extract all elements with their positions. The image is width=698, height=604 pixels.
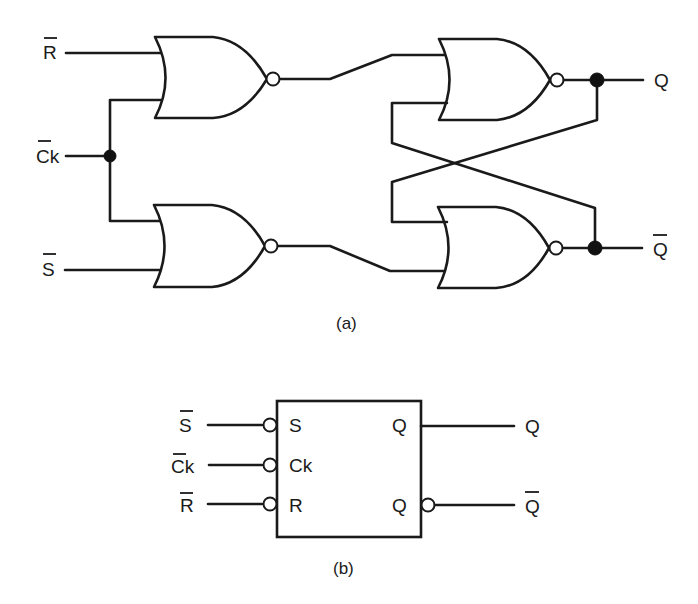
caption-b: (b) bbox=[333, 559, 354, 578]
output-q-bar-label: Q bbox=[653, 235, 668, 260]
nor-gate-1 bbox=[155, 37, 267, 118]
ext-input-ck-bar-label: Ck bbox=[171, 454, 195, 477]
ext-input-r-bar-label: R bbox=[180, 493, 194, 516]
junction-q bbox=[590, 73, 604, 87]
pin-r-bubble bbox=[264, 498, 277, 511]
ext-output-q-bar-label: Q bbox=[525, 492, 540, 517]
output-q-label: Q bbox=[654, 70, 669, 91]
nor-gate-4 bbox=[438, 207, 549, 288]
figure-b: S Ck R S Ck R Q Q Q Q (b) bbox=[171, 401, 540, 578]
input-s-bar-label: S bbox=[42, 254, 56, 280]
ext-output-q-label: Q bbox=[525, 416, 540, 437]
pin-q-bar-label: Q bbox=[392, 495, 407, 516]
nor-gate-3-bubble bbox=[551, 74, 564, 87]
pin-q-label: Q bbox=[392, 415, 407, 436]
pin-r-label: R bbox=[289, 495, 303, 516]
svg-text:R: R bbox=[43, 42, 57, 63]
pin-ck-label: Ck bbox=[289, 455, 313, 476]
nor-gate-2-bubble bbox=[265, 240, 278, 253]
caption-a: (a) bbox=[336, 314, 357, 333]
nor-gate-4-bubble bbox=[550, 242, 563, 255]
svg-text:Ck: Ck bbox=[171, 456, 195, 477]
svg-text:Ck: Ck bbox=[36, 146, 60, 167]
svg-text:R: R bbox=[180, 495, 194, 516]
nor-gate-3 bbox=[439, 39, 550, 120]
junction-q-bar bbox=[588, 241, 602, 255]
svg-text:S: S bbox=[42, 259, 55, 280]
wire-g1-to-g3 bbox=[280, 55, 446, 79]
flip-flop-diagram: R Ck S bbox=[0, 0, 698, 604]
ext-input-s-bar-label: S bbox=[179, 411, 193, 436]
junction-ck bbox=[104, 150, 116, 162]
pin-ck-bubble bbox=[264, 459, 277, 472]
svg-text:S: S bbox=[179, 415, 192, 436]
svg-text:Q: Q bbox=[653, 239, 668, 260]
nor-gate-2 bbox=[154, 205, 265, 287]
wire-g2-to-g4 bbox=[278, 246, 446, 271]
pin-s-bubble bbox=[264, 419, 277, 432]
pin-s-label: S bbox=[289, 415, 302, 436]
svg-text:Q: Q bbox=[525, 496, 540, 517]
pin-q-bar-bubble bbox=[422, 499, 435, 512]
nor-gate-1-bubble bbox=[267, 73, 280, 86]
input-r-bar-label: R bbox=[43, 38, 57, 63]
figure-a: R Ck S bbox=[36, 37, 669, 333]
input-ck-bar-label: Ck bbox=[36, 141, 60, 167]
